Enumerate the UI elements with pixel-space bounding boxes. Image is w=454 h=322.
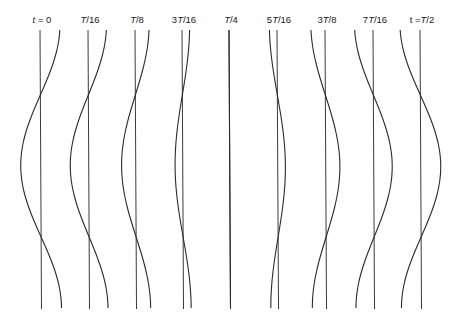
time-label: T/4 bbox=[224, 14, 238, 25]
equilibrium-line bbox=[325, 30, 327, 309]
equilibrium-line bbox=[135, 30, 137, 309]
snapshot-3 bbox=[175, 30, 191, 309]
time-label: 3T/8 bbox=[317, 14, 336, 25]
snapshot-4 bbox=[229, 30, 231, 309]
snapshot-0 bbox=[21, 30, 62, 309]
snapshot-5 bbox=[269, 30, 285, 309]
equilibrium-line bbox=[182, 30, 184, 309]
time-label: t = 0 bbox=[33, 14, 52, 25]
snapshot-7 bbox=[355, 30, 393, 309]
equilibrium-line bbox=[88, 30, 90, 309]
snapshot-6 bbox=[311, 30, 340, 309]
time-label: 7T/16 bbox=[363, 14, 387, 25]
time-label: 5T/16 bbox=[267, 14, 291, 25]
snapshot-2 bbox=[122, 30, 151, 309]
time-label: 3T/16 bbox=[172, 14, 196, 25]
equilibrium-line bbox=[40, 30, 42, 309]
standing-wave-figure: t = 0T/16T/83T/16T/45T/163T/87T/16t =T/2 bbox=[0, 0, 454, 322]
snapshot-8 bbox=[400, 30, 441, 309]
wave-snapshots bbox=[0, 0, 454, 322]
time-label: T/8 bbox=[130, 14, 144, 25]
time-label: T/16 bbox=[80, 14, 99, 25]
snapshot-1 bbox=[70, 30, 108, 309]
string-profile bbox=[229, 30, 230, 308]
time-label: t =T/2 bbox=[410, 14, 435, 25]
equilibrium-line bbox=[373, 30, 375, 309]
equilibrium-line bbox=[277, 30, 279, 309]
equilibrium-line bbox=[420, 30, 422, 309]
